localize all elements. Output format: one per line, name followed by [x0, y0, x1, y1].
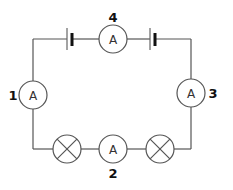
ammeter-4: A 4: [99, 10, 127, 53]
ammeter-3: A 3: [177, 79, 218, 107]
wires: [33, 39, 191, 149]
ammeter-label: 1: [8, 88, 17, 103]
ammeter-symbol: A: [109, 33, 118, 47]
ammeter-label: 4: [108, 10, 117, 25]
circuit-diagram: A 4 A 1 A 3 A 2: [0, 0, 233, 190]
lamp-left: [53, 135, 81, 163]
ammeter-label: 3: [208, 86, 217, 101]
ammeter-label: 2: [108, 166, 117, 181]
ammeter-symbol: A: [29, 89, 38, 103]
cell-negative-plate: [154, 33, 157, 46]
ammeter-symbol: A: [109, 143, 118, 157]
lamp-right: [146, 135, 174, 163]
ammeter-1: A 1: [8, 81, 47, 109]
cell-negative-plate: [71, 33, 74, 46]
cell-right: [150, 28, 157, 50]
ammeter-symbol: A: [187, 87, 196, 101]
cell-left: [67, 28, 74, 50]
ammeter-2: A 2: [99, 135, 127, 181]
